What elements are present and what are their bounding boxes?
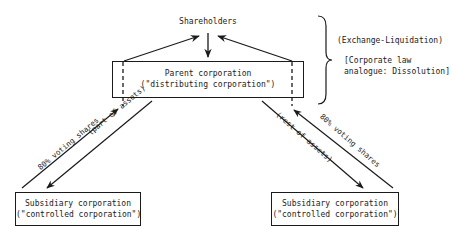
annotation-note-line1: [Corporate law (344, 56, 411, 66)
annotation-note-line2: analogue: Dissolution] (344, 67, 450, 77)
shareholders-label: Shareholders (168, 17, 248, 27)
subsidiary-right-line2: ("controlled corporation") (272, 210, 398, 220)
subsidiary-left-line2: ("controlled corporation") (16, 210, 140, 220)
parent-line1: Parent corporation (113, 69, 303, 79)
brace (318, 16, 332, 104)
subsidiary-right-line1: Subsidiary corporation (272, 199, 398, 209)
subsidiary-right-box: Subsidiary corporation ("controlled corp… (271, 192, 399, 226)
subsidiary-left-box: Subsidiary corporation ("controlled corp… (15, 192, 141, 226)
subsidiary-left-line1: Subsidiary corporation (16, 199, 140, 209)
arrow-right-voting-shares (294, 110, 393, 188)
arrow-parent-left-to-shareholders (124, 36, 199, 61)
arrow-parent-right-to-shareholders (218, 36, 292, 61)
annotation-title: (Exchange-Liquidation) (337, 36, 443, 46)
